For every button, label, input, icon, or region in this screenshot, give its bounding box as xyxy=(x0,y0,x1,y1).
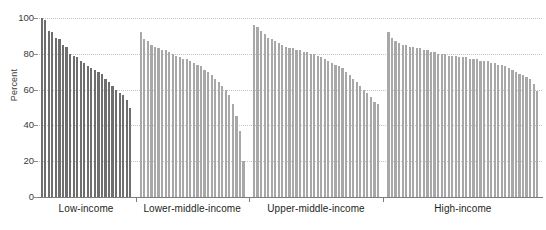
bar xyxy=(62,45,64,197)
bar xyxy=(87,66,89,197)
bar xyxy=(433,52,435,197)
bar xyxy=(377,104,379,197)
bar xyxy=(511,70,513,197)
bar xyxy=(515,72,517,197)
y-axis-ticks: 020406080100 xyxy=(6,0,34,230)
bar xyxy=(55,38,57,197)
bar xyxy=(487,61,489,197)
bar xyxy=(147,41,149,197)
bar xyxy=(225,90,227,197)
bar-group-0 xyxy=(40,18,132,197)
bar xyxy=(476,59,478,197)
bar xyxy=(366,93,368,197)
bar xyxy=(398,43,400,197)
group-separator-2 xyxy=(383,197,384,202)
y-tick-mark-100 xyxy=(34,18,38,19)
bar xyxy=(122,95,124,197)
bar xyxy=(274,41,276,197)
bar xyxy=(196,65,198,197)
bar xyxy=(186,59,188,197)
bar xyxy=(387,32,389,197)
bar xyxy=(80,61,82,197)
bar xyxy=(129,108,131,198)
bar xyxy=(207,72,209,197)
bar xyxy=(281,45,283,197)
bar xyxy=(285,47,287,197)
y-tick-mark-0 xyxy=(34,197,38,198)
bar xyxy=(271,39,273,197)
bar xyxy=(143,39,145,197)
bar-group-1 xyxy=(139,18,245,197)
bar xyxy=(356,82,358,197)
bar-group-3 xyxy=(387,18,539,197)
y-tick-label-100: 100 xyxy=(8,13,34,23)
bar xyxy=(462,57,464,197)
bar xyxy=(359,86,361,197)
bar xyxy=(494,63,496,197)
bar xyxy=(189,61,191,197)
bar xyxy=(448,56,450,197)
bar xyxy=(437,54,439,197)
bar xyxy=(83,63,85,197)
bar xyxy=(175,56,177,197)
bar xyxy=(405,45,407,197)
y-tick-mark-40 xyxy=(34,125,38,126)
bar xyxy=(338,66,340,197)
bar xyxy=(172,54,174,197)
bar xyxy=(508,68,510,197)
bar xyxy=(310,54,312,197)
bar xyxy=(221,86,223,197)
bar-group-2 xyxy=(252,18,379,197)
bar xyxy=(345,72,347,197)
bar xyxy=(200,66,202,197)
bar xyxy=(119,93,121,197)
bar xyxy=(472,59,474,197)
bar xyxy=(306,52,308,197)
bar xyxy=(504,66,506,197)
bar xyxy=(115,90,117,197)
bar xyxy=(126,100,128,197)
y-tick-label-80: 80 xyxy=(8,49,34,59)
bar xyxy=(94,70,96,197)
bar xyxy=(44,20,46,197)
cutoff-text-sliver: · · · · · · · xyxy=(0,0,546,8)
bar xyxy=(165,50,167,197)
bar xyxy=(479,61,481,197)
bar xyxy=(260,31,262,197)
bar xyxy=(363,90,365,197)
bar xyxy=(320,57,322,197)
bar xyxy=(469,59,471,197)
bar xyxy=(299,50,301,197)
bar xyxy=(161,50,163,197)
bar xyxy=(256,27,258,197)
bar xyxy=(73,56,75,197)
bar xyxy=(451,56,453,197)
bar xyxy=(211,75,213,197)
x-category-label-1: Lower-middle-income xyxy=(139,203,245,214)
bar xyxy=(154,47,156,197)
bar xyxy=(65,47,67,197)
bar xyxy=(327,61,329,197)
bar xyxy=(97,72,99,197)
bar xyxy=(76,57,78,197)
bar xyxy=(41,18,43,197)
bar xyxy=(522,75,524,197)
bar xyxy=(214,79,216,197)
y-tick-label-0: 0 xyxy=(8,192,34,202)
bar xyxy=(278,43,280,197)
group-separator-1 xyxy=(249,197,250,202)
cutoff-text: · · · · · · · xyxy=(96,0,135,3)
bar xyxy=(235,116,237,197)
bar xyxy=(168,52,170,197)
bar xyxy=(501,65,503,197)
plot-area xyxy=(39,18,542,197)
bar xyxy=(267,38,269,197)
bar xyxy=(253,25,255,197)
bar xyxy=(324,59,326,197)
bar xyxy=(218,82,220,197)
y-tick-mark-80 xyxy=(34,54,38,55)
x-category-label-2: Upper-middle-income xyxy=(252,203,379,214)
bar xyxy=(444,54,446,197)
y-tick-label-40: 40 xyxy=(8,120,34,130)
bar xyxy=(111,86,113,197)
